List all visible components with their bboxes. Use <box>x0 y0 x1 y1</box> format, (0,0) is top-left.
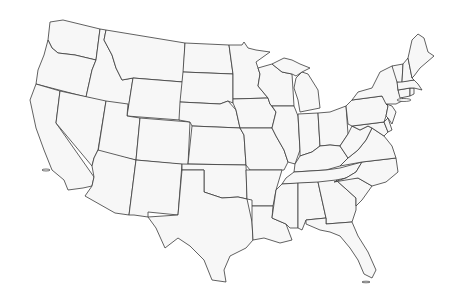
state-michigan[interactable] <box>294 72 320 112</box>
state-new-mexico[interactable] <box>129 160 182 217</box>
state-ohio[interactable] <box>318 106 348 146</box>
channel-islands <box>42 169 50 171</box>
state-maine[interactable] <box>408 34 434 78</box>
us-states-map <box>0 0 460 295</box>
state-wyoming[interactable] <box>127 78 183 120</box>
long-island <box>397 99 411 102</box>
state-north-dakota[interactable] <box>183 43 233 74</box>
state-colorado[interactable] <box>136 118 190 165</box>
florida-keys <box>362 281 370 283</box>
state-south-dakota[interactable] <box>180 72 233 104</box>
state-pennsylvania[interactable] <box>346 96 388 126</box>
state-kansas[interactable] <box>188 126 246 165</box>
state-rhode-island[interactable] <box>410 88 414 96</box>
state-florida[interactable] <box>306 218 376 278</box>
